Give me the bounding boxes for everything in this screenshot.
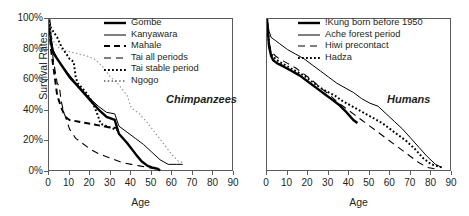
x-tick-mark — [430, 171, 431, 175]
x-tick-mark — [328, 171, 329, 175]
x-tick-mark — [233, 171, 234, 175]
legend-humans: !Kung born before 1950Ache forest period… — [297, 17, 423, 63]
x-tick-mark — [348, 171, 349, 175]
panel-humans: 0102030405060708090 Age !Kung born befor… — [235, 0, 469, 216]
y-tick-label: 40% — [0, 105, 43, 115]
legend-label: Ache forest period — [325, 29, 400, 41]
legend-label: !Kung born before 1950 — [325, 17, 423, 29]
legend-label: Tai stable period — [131, 63, 199, 75]
x-tick-mark — [369, 171, 370, 175]
y-tick-label: 100% — [0, 13, 43, 23]
legend-item[interactable]: Mahale — [103, 40, 199, 52]
legend-line-swatch — [297, 17, 321, 28]
legend-item[interactable]: Tai all periods — [103, 52, 199, 64]
x-tick-mark — [389, 171, 390, 175]
x-tick-mark — [410, 171, 411, 175]
panel-chimpanzees: Survival Rates 100%80%60%40%20%0% 010203… — [0, 0, 235, 216]
x-tick-label: 40 — [119, 178, 141, 188]
x-tick-mark — [89, 171, 90, 175]
x-axis-label: Age — [266, 196, 451, 208]
legend-label: Ngogo — [131, 75, 158, 87]
legend-item[interactable]: Tai stable period — [103, 63, 199, 75]
x-tick-label: 20 — [78, 178, 100, 188]
legend-line-swatch — [103, 40, 127, 51]
figure-root: Survival Rates 100%80%60%40%20%0% 010203… — [0, 0, 469, 216]
x-tick-label: 0 — [255, 178, 277, 188]
legend-item[interactable]: Ngogo — [103, 75, 199, 87]
x-tick-mark — [266, 171, 267, 175]
legend-label: Gombe — [131, 17, 162, 29]
legend-label: Hiwi precontact — [325, 40, 389, 52]
x-tick-mark — [48, 171, 49, 175]
x-tick-mark — [151, 171, 152, 175]
legend-item[interactable]: Kanyawara — [103, 29, 199, 41]
x-axis-label: Age — [48, 196, 233, 208]
legend-line-swatch — [103, 29, 127, 40]
legend-line-swatch — [103, 64, 127, 75]
legend-item[interactable]: Hiwi precontact — [297, 40, 423, 52]
x-tick-mark — [130, 171, 131, 175]
x-tick-mark — [110, 171, 111, 175]
y-tick-label: 0% — [0, 166, 43, 176]
y-tick-label: 20% — [0, 135, 43, 145]
x-tick-label: 70 — [181, 178, 203, 188]
x-tick-mark — [451, 171, 452, 175]
legend-line-swatch — [103, 75, 127, 86]
legend-line-swatch — [297, 29, 321, 40]
legend-item[interactable]: !Kung born before 1950 — [297, 17, 423, 29]
legend-label: Mahale — [131, 40, 162, 52]
legend-line-swatch — [297, 52, 321, 63]
x-tick-label: 70 — [399, 178, 421, 188]
x-tick-label: 60 — [160, 178, 182, 188]
legend-line-swatch — [103, 52, 127, 63]
panel-title-chimpanzees: Chimpanzees — [166, 93, 237, 105]
x-tick-label: 80 — [201, 178, 223, 188]
x-tick-label: 0 — [37, 178, 59, 188]
y-tick-label: 80% — [0, 44, 43, 54]
legend-item[interactable]: Hadza — [297, 52, 423, 64]
legend-item[interactable]: Gombe — [103, 17, 199, 29]
legend-line-swatch — [103, 17, 127, 28]
x-tick-label: 10 — [276, 178, 298, 188]
x-tick-label: 10 — [58, 178, 80, 188]
y-tick-label: 60% — [0, 74, 43, 84]
x-tick-label: 20 — [296, 178, 318, 188]
x-tick-label: 60 — [378, 178, 400, 188]
legend-line-swatch — [297, 40, 321, 51]
x-tick-label: 80 — [419, 178, 441, 188]
x-tick-label: 40 — [337, 178, 359, 188]
x-tick-mark — [171, 171, 172, 175]
legend-label: Tai all periods — [131, 52, 188, 64]
x-tick-label: 30 — [317, 178, 339, 188]
x-tick-label: 30 — [99, 178, 121, 188]
legend-label: Hadza — [325, 52, 352, 64]
x-tick-mark — [69, 171, 70, 175]
x-tick-mark — [307, 171, 308, 175]
panel-title-humans: Humans — [387, 93, 430, 105]
legend-label: Kanyawara — [131, 29, 178, 41]
x-tick-label: 50 — [358, 178, 380, 188]
legend-item[interactable]: Ache forest period — [297, 29, 423, 41]
x-tick-label: 50 — [140, 178, 162, 188]
x-tick-mark — [212, 171, 213, 175]
x-tick-mark — [192, 171, 193, 175]
legend-chimpanzees: GombeKanyawaraMahaleTai all periodsTai s… — [103, 17, 199, 87]
x-tick-label: 90 — [440, 178, 462, 188]
x-tick-mark — [287, 171, 288, 175]
